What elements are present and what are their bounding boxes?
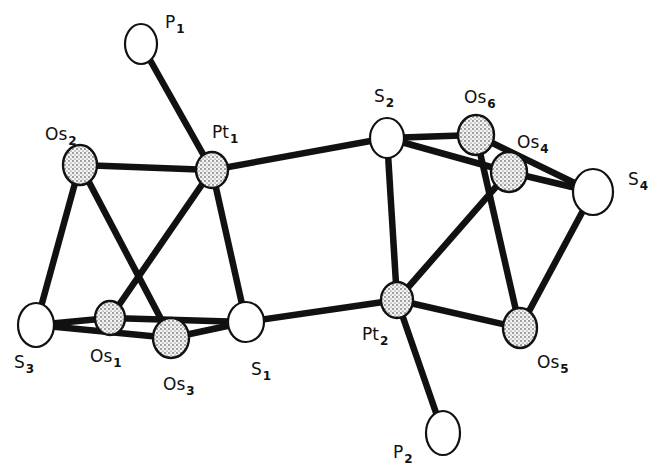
atom-label-subscript: 6 (487, 97, 495, 111)
atom-label-element: Pt (362, 324, 379, 344)
bond-pt2-os5 (397, 300, 520, 328)
atom-label-s3: S3 (14, 352, 34, 376)
atom-pt2 (381, 282, 413, 318)
bond-os2-pt1 (80, 165, 212, 170)
bonds-layer (36, 44, 593, 433)
bond-pt2-os4 (397, 172, 509, 300)
atom-label-element: S (251, 359, 262, 379)
atom-label-subscript: 5 (560, 362, 568, 376)
atom-os6 (458, 115, 494, 155)
bond-os2-s3 (36, 165, 80, 325)
atom-p2 (426, 411, 460, 455)
atom-s1 (228, 302, 264, 342)
atom-label-subscript: 3 (186, 384, 194, 398)
atom-label-element: Os (45, 124, 67, 144)
molecule-diagram: P1Pt1Os2S3Os1Os3S1S2Os6Os4S4Pt2Os5P2 (0, 0, 655, 472)
atom-label-s1: S1 (251, 359, 271, 383)
atom-label-element: Os (464, 87, 486, 107)
labels-layer: P1Pt1Os2S3Os1Os3S1S2Os6Os4S4Pt2Os5P2 (14, 12, 648, 466)
atom-label-subscript: 4 (540, 142, 548, 156)
atoms-layer (18, 24, 613, 455)
atom-os5 (503, 308, 537, 348)
atom-label-subscript: 1 (230, 132, 238, 146)
atom-label-p2: P2 (393, 442, 413, 466)
atom-label-os2: Os2 (45, 124, 77, 148)
atom-os2 (63, 145, 97, 185)
atom-s3 (18, 303, 54, 347)
atom-label-subscript: 2 (404, 452, 412, 466)
atom-label-element: S (374, 86, 385, 106)
atom-label-s4: S4 (628, 169, 648, 193)
atom-label-s2: S2 (374, 86, 394, 110)
bond-s2-pt2 (387, 138, 397, 300)
bond-p1-pt1 (141, 44, 212, 170)
atom-label-element: Os (163, 374, 185, 394)
atom-label-subscript: 1 (176, 22, 184, 36)
atom-label-element: Os (537, 352, 559, 372)
atom-label-subscript: 2 (68, 134, 76, 148)
bond-pt1-os1 (110, 170, 212, 318)
atom-s4 (573, 169, 613, 215)
atom-label-element: P (393, 442, 403, 462)
atom-label-subscript: 1 (113, 356, 121, 370)
atom-label-element: S (628, 169, 639, 189)
atom-label-subscript: 1 (263, 369, 271, 383)
atom-label-element: S (14, 352, 25, 372)
atom-label-subscript: 4 (640, 179, 648, 193)
atom-os3 (153, 318, 189, 358)
atom-label-os1: Os1 (90, 346, 122, 370)
atom-os1 (95, 301, 125, 335)
atom-label-pt1: Pt1 (212, 122, 238, 146)
atom-label-subscript: 2 (386, 96, 394, 110)
atom-label-os6: Os6 (464, 87, 496, 111)
atom-label-element: Os (517, 132, 539, 152)
atom-label-p1: P1 (165, 12, 185, 36)
atom-label-element: Os (90, 346, 112, 366)
atom-label-subscript: 3 (26, 362, 34, 376)
atom-os4 (491, 152, 527, 192)
atom-pt1 (196, 152, 228, 188)
atom-label-os5: Os5 (537, 352, 569, 376)
atom-label-element: P (165, 12, 175, 32)
atom-label-element: Pt (212, 122, 229, 142)
bond-s1-pt2 (246, 300, 397, 322)
atom-label-os3: Os3 (163, 374, 195, 398)
atom-p1 (125, 24, 157, 64)
atom-label-os4: Os4 (517, 132, 549, 156)
atom-s2 (370, 118, 404, 158)
atom-label-pt2: Pt2 (362, 324, 388, 348)
atom-label-subscript: 2 (380, 334, 388, 348)
bond-pt1-s1 (212, 170, 246, 322)
